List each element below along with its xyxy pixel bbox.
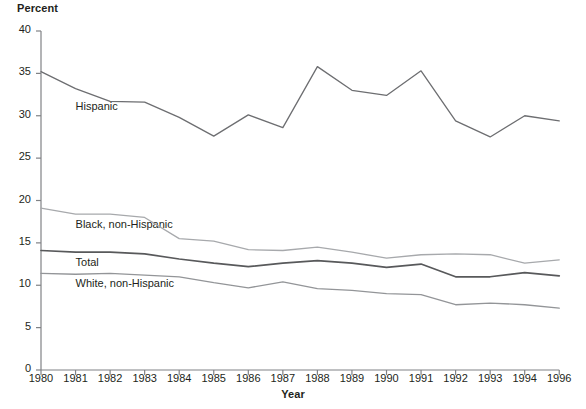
series-line-black-non-hispanic [41,208,559,263]
data-series-group [41,67,559,309]
series-line-hispanic [41,67,559,137]
axis-lines [36,31,559,375]
series-line-white-non-hispanic [41,273,559,308]
line-chart: Percent Year 4035302520151050 1980198119… [0,0,586,409]
plot-area [0,0,586,409]
